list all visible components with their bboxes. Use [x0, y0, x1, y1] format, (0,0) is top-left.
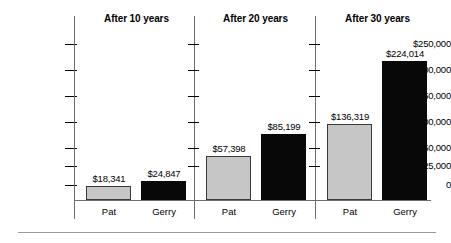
category-label-after-10-years-pat: Pat	[79, 206, 139, 217]
group-title-after-30-years: After 30 years	[325, 13, 430, 24]
x-axis-baseline	[74, 200, 431, 201]
group-title-after-20-years: After 20 years	[203, 13, 308, 24]
bar-after-30-years-pat	[327, 124, 372, 200]
category-label-after-20-years-gerry: Gerry	[254, 206, 314, 217]
group-separator-tick	[309, 44, 320, 45]
group-title-after-10-years: After 10 years	[84, 13, 189, 24]
bar-value-after-10-years-pat: $18,341	[79, 173, 139, 184]
group-separator-tick	[188, 70, 199, 71]
group-separator-tick	[188, 122, 199, 123]
group-separator-tick	[309, 96, 320, 97]
group-separator-tick	[188, 166, 199, 167]
bar-after-30-years-gerry	[382, 61, 427, 200]
group-separator-tick	[309, 166, 320, 167]
bar-after-10-years-gerry	[141, 181, 186, 200]
bar-after-20-years-gerry	[261, 134, 306, 200]
group-separator-tick	[188, 44, 199, 45]
group-separator-line-2	[315, 16, 316, 219]
bar-value-after-20-years-pat: $57,398	[199, 143, 259, 154]
category-label-after-10-years-gerry: Gerry	[134, 206, 194, 217]
group-separator-line-1	[194, 16, 195, 219]
bar-value-after-10-years-gerry: $24,847	[134, 168, 194, 179]
category-label-after-30-years-pat: Pat	[320, 206, 380, 217]
bar-value-after-30-years-pat: $136,319	[318, 111, 382, 122]
group-separator-tick	[309, 70, 320, 71]
group-separator-tick	[188, 148, 199, 149]
group-separator-tick	[309, 148, 320, 149]
category-label-after-20-years-pat: Pat	[199, 206, 259, 217]
category-label-after-30-years-gerry: Gerry	[375, 206, 435, 217]
bar-after-20-years-pat	[206, 156, 251, 200]
y-axis-line	[74, 16, 75, 219]
bottom-divider-rule	[18, 232, 436, 233]
bar-value-after-30-years-gerry: $224,014	[373, 48, 437, 59]
grouped-bar-chart: $250,000 $200,000 $150,000 $100,000 $50,…	[0, 0, 451, 243]
group-separator-tick	[188, 96, 199, 97]
bar-after-10-years-pat	[86, 186, 131, 200]
bar-value-after-20-years-gerry: $85,199	[254, 121, 314, 132]
